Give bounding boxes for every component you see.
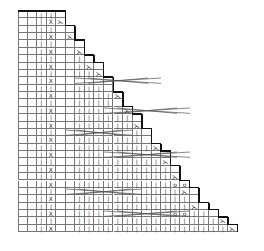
chart-cell: X	[47, 195, 57, 202]
chart-cell: |	[114, 166, 124, 173]
chart-cell	[56, 225, 66, 232]
chart-cell: |	[94, 158, 104, 165]
chart-cell	[28, 129, 38, 136]
chart-cell	[56, 107, 66, 114]
chart-cell: |	[75, 122, 85, 129]
chart-cell	[56, 195, 66, 202]
chart-cell	[28, 99, 38, 106]
chart-cell	[18, 114, 28, 121]
chart-cell: |	[85, 70, 95, 77]
chart-cell: |	[152, 158, 162, 165]
chart-cell	[56, 166, 66, 173]
chart-cell	[56, 40, 66, 47]
chart-cell	[18, 195, 28, 202]
chart-edge	[237, 225, 239, 232]
chart-cell: |	[37, 77, 47, 84]
chart-cell: X	[47, 33, 57, 40]
chart-cell: |	[37, 136, 47, 143]
chart-cell: |	[123, 173, 133, 180]
chart-cell: |	[85, 195, 95, 202]
chart-cell: |	[75, 107, 85, 114]
chart-cell: |	[85, 99, 95, 106]
chart-cell: |	[94, 99, 104, 106]
chart-cell	[18, 63, 28, 70]
chart-cell: |	[104, 99, 114, 106]
chart-cell: |	[94, 210, 104, 217]
chart-cell: X	[47, 136, 57, 143]
chart-cell	[28, 40, 38, 47]
chart-cell	[66, 173, 76, 180]
chart-cell	[18, 203, 28, 210]
chart-cell	[18, 26, 28, 33]
chart-cell	[28, 107, 38, 114]
chart-cell	[66, 92, 76, 99]
chart-edge	[141, 114, 143, 121]
cable-cross-icon	[104, 151, 190, 158]
chart-cell: |	[85, 203, 95, 210]
chart-cell: |	[152, 195, 162, 202]
chart-cell	[66, 63, 76, 70]
chart-cell	[66, 225, 76, 232]
cable-cross-icon	[66, 188, 142, 195]
chart-cell: X	[47, 225, 57, 232]
chart-cell: |	[199, 210, 209, 217]
chart-edge	[65, 11, 67, 18]
chart-cell	[18, 99, 28, 106]
chart-cell	[66, 166, 76, 173]
chart-cell	[56, 173, 66, 180]
chart-cell: |	[37, 151, 47, 158]
chart-cell	[28, 217, 38, 224]
chart-edge	[179, 166, 181, 173]
chart-cell: |	[161, 203, 171, 210]
chart-cell: |	[133, 195, 143, 202]
chart-cell: |	[123, 203, 133, 210]
chart-cell: |	[75, 99, 85, 106]
chart-cell	[18, 11, 28, 18]
chart-cell: |	[47, 203, 57, 210]
chart-cell	[66, 107, 76, 114]
chart-cell: |	[94, 85, 104, 92]
chart-cell: |	[75, 217, 85, 224]
chart-cell	[28, 136, 38, 143]
chart-cell: |	[104, 217, 114, 224]
chart-cell: |	[123, 114, 133, 121]
chart-cell: |	[133, 166, 143, 173]
chart-cell	[28, 166, 38, 173]
chart-cell	[66, 151, 76, 158]
chart-cell	[18, 225, 28, 232]
chart-cell: |	[37, 99, 47, 106]
chart-edge	[151, 129, 153, 136]
chart-cell: |	[94, 136, 104, 143]
chart-cell: |	[47, 114, 57, 121]
chart-cell: |	[85, 173, 95, 180]
chart-cell: |	[85, 114, 95, 121]
chart-cell	[18, 55, 28, 62]
chart-cell: |	[152, 217, 162, 224]
chart-cell	[66, 210, 76, 217]
chart-cell	[66, 55, 76, 62]
chart-cell: o	[171, 181, 181, 188]
chart-cell: |	[85, 166, 95, 173]
chart-cell: |	[133, 129, 143, 136]
chart-cell	[66, 85, 76, 92]
chart-cell: |	[104, 181, 114, 188]
chart-edge	[74, 39, 85, 41]
chart-cell: |	[37, 85, 47, 92]
chart-edge	[18, 10, 66, 12]
chart-cell: |	[37, 33, 47, 40]
chart-cell: |	[75, 210, 85, 217]
chart-cell: |	[104, 203, 114, 210]
chart-cell: |	[161, 166, 171, 173]
chart-cell: X	[47, 151, 57, 158]
chart-cell: |	[37, 203, 47, 210]
chart-cell: |	[85, 107, 95, 114]
chart-cell: |	[75, 63, 85, 70]
chart-cell	[18, 158, 28, 165]
chart-cell: |	[104, 114, 114, 121]
chart-cell: |	[114, 136, 124, 143]
chart-cell: |	[171, 203, 181, 210]
chart-cell: |	[209, 225, 219, 232]
chart-cell: |	[85, 225, 95, 232]
chart-cell	[28, 77, 38, 84]
chart-cell: |	[85, 181, 95, 188]
